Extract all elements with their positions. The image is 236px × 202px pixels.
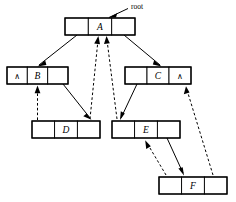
node-e[interactable]: E (112, 121, 180, 138)
edge-e-to-a (104, 36, 117, 119)
diagram-canvas: A ∧ B C ∧ D (0, 0, 236, 202)
node-a-label: A (96, 22, 103, 32)
node-f[interactable]: F (159, 177, 227, 194)
edge-root-to-a (109, 9, 128, 18)
edge-f-to-e (145, 140, 166, 175)
node-a[interactable]: A (65, 18, 135, 35)
node-e-cell-0[interactable] (112, 121, 135, 138)
node-b-cell-2[interactable] (48, 67, 68, 84)
node-f-cell-0[interactable] (159, 177, 182, 194)
edge-a-to-b (38, 35, 78, 66)
node-e-label: E (142, 125, 149, 135)
node-a-cell-0[interactable] (65, 18, 88, 35)
edge-e-to-f (167, 138, 184, 176)
node-link-diagram: A ∧ B C ∧ D (0, 0, 236, 202)
edge-d-to-a (90, 36, 100, 119)
node-f-label: F (189, 181, 196, 191)
node-f-cell-2[interactable] (204, 177, 227, 194)
node-c-cell-0[interactable] (125, 67, 147, 84)
node-d-label: D (62, 125, 70, 135)
edge-a-to-c (124, 35, 162, 66)
node-b-label: B (35, 71, 41, 81)
node-d-cell-0[interactable] (32, 121, 55, 138)
node-e-cell-2[interactable] (157, 121, 180, 138)
edge-c-to-e (120, 84, 137, 120)
edge-f-to-c (184, 86, 213, 175)
node-c[interactable]: C ∧ (125, 67, 191, 84)
node-b-nil-icon: ∧ (14, 72, 20, 81)
node-a-cell-2[interactable] (112, 18, 135, 35)
edge-d-to-b (35, 86, 41, 121)
node-d-cell-2[interactable] (77, 121, 100, 138)
root-pointer-label: root (131, 2, 144, 11)
node-c-label: C (155, 71, 162, 81)
edge-b-to-d (63, 84, 92, 120)
node-d[interactable]: D (32, 121, 100, 138)
node-b[interactable]: ∧ B (7, 67, 68, 84)
node-c-nil-icon: ∧ (177, 72, 183, 81)
